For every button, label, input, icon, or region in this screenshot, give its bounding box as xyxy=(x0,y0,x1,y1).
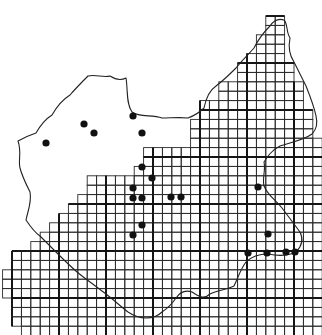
grid-cell xyxy=(219,232,228,241)
grid-cell xyxy=(238,157,247,166)
grid-cell xyxy=(313,326,322,335)
grid-cell xyxy=(162,326,171,335)
grid-cell xyxy=(303,260,312,269)
grid-cell xyxy=(275,289,284,298)
grid-cell xyxy=(3,270,12,279)
grid-cell xyxy=(303,185,312,194)
grid-cell xyxy=(294,82,303,91)
grid-cell xyxy=(294,317,303,326)
grid-cell xyxy=(191,289,200,298)
grid-cell xyxy=(115,279,124,288)
grid-cell xyxy=(162,289,171,298)
grid-cell xyxy=(153,279,162,288)
grid-cell xyxy=(313,279,322,288)
grid-cell xyxy=(266,63,275,72)
grid-cell xyxy=(200,317,209,326)
grid-cell xyxy=(303,195,312,204)
grid-cell xyxy=(106,213,115,222)
grid-cell xyxy=(228,166,237,175)
grid-cell xyxy=(247,317,256,326)
grid-cell xyxy=(12,260,21,269)
grid-cell xyxy=(219,101,228,110)
grid-cell xyxy=(219,298,228,307)
grid-cell xyxy=(294,213,303,222)
grid-cell xyxy=(59,260,68,269)
grid-cell xyxy=(266,148,275,157)
grid-cell xyxy=(191,223,200,232)
grid-cell xyxy=(115,317,124,326)
grid-cell xyxy=(247,270,256,279)
grid-cell xyxy=(256,242,265,251)
grid-cell xyxy=(21,270,30,279)
grid-cell xyxy=(209,223,218,232)
grid-cell xyxy=(219,279,228,288)
grid-cell xyxy=(209,270,218,279)
grid-cell xyxy=(303,298,312,307)
grid-cell xyxy=(31,317,40,326)
grid-cell xyxy=(228,251,237,260)
grid-cell xyxy=(68,213,77,222)
grid-cell xyxy=(172,176,181,185)
grid-cell xyxy=(181,176,190,185)
grid-cell xyxy=(162,251,171,260)
grid-cell xyxy=(106,204,115,213)
grid-cell xyxy=(97,213,106,222)
grid-cell xyxy=(285,223,294,232)
grid-cell xyxy=(238,195,247,204)
grid-cell xyxy=(294,157,303,166)
grid-cell xyxy=(191,129,200,138)
grid-cell xyxy=(59,307,68,316)
grid-cell xyxy=(313,148,322,157)
grid-cell xyxy=(238,242,247,251)
grid-cell xyxy=(191,119,200,128)
grid-cell xyxy=(275,176,284,185)
grid-cell xyxy=(209,242,218,251)
occurrence-dot xyxy=(264,230,271,237)
grid-cell xyxy=(59,242,68,251)
grid-cell xyxy=(181,223,190,232)
grid-cell xyxy=(256,129,265,138)
grid-cell xyxy=(209,204,218,213)
grid-cell xyxy=(153,242,162,251)
distribution-map xyxy=(0,0,322,335)
grid-cell xyxy=(153,166,162,175)
grid-cell xyxy=(200,307,209,316)
grid-cell xyxy=(285,110,294,119)
grid-cell xyxy=(228,298,237,307)
grid-cell xyxy=(162,242,171,251)
grid-cell xyxy=(275,242,284,251)
grid-cell xyxy=(275,129,284,138)
grid-cell xyxy=(219,213,228,222)
grid-cell xyxy=(238,289,247,298)
grid-cell xyxy=(191,260,200,269)
grid-cell xyxy=(162,270,171,279)
grid-cell xyxy=(40,242,49,251)
grid-cell xyxy=(87,176,96,185)
grid-cell xyxy=(313,307,322,316)
grid-cell xyxy=(266,138,275,147)
grid-cell xyxy=(87,270,96,279)
grid-cell xyxy=(313,242,322,251)
grid-cell xyxy=(172,185,181,194)
grid-cell xyxy=(275,307,284,316)
grid-cell xyxy=(50,270,59,279)
grid-cell xyxy=(144,270,153,279)
grid-cell xyxy=(228,242,237,251)
grid-cell xyxy=(172,148,181,157)
grid-cell xyxy=(153,213,162,222)
grid-cell xyxy=(275,223,284,232)
occurrence-dot xyxy=(90,129,97,136)
grid-cell xyxy=(12,251,21,260)
grid-cell xyxy=(97,176,106,185)
grid-cell xyxy=(313,317,322,326)
grid-cell xyxy=(275,298,284,307)
grid-cell xyxy=(247,119,256,128)
grid-cell xyxy=(219,307,228,316)
grid-cell xyxy=(12,307,21,316)
grid-cell xyxy=(134,251,143,260)
grid-cell xyxy=(294,91,303,100)
grid-cell xyxy=(266,129,275,138)
grid-cell xyxy=(191,279,200,288)
grid-cell xyxy=(191,213,200,222)
grid-cell xyxy=(303,223,312,232)
